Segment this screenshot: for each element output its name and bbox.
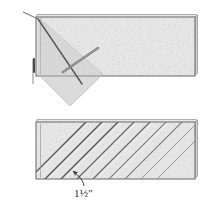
bottom-panel [28,116,205,186]
spacing-value: 1½″ [74,187,93,199]
wood-board-bottom [28,116,205,186]
figure-canvas [0,0,205,208]
pencil [33,59,34,84]
woodworking-figure [0,0,205,208]
top-panel [23,11,202,106]
spacing-dimension-label: 1½″ [74,188,93,199]
